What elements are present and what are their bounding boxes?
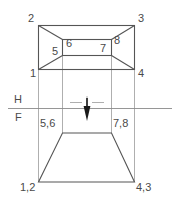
vertex-label-7: 7 <box>100 43 106 54</box>
vertex-label-2: 2 <box>28 13 34 24</box>
vertex-label-1: 1 <box>30 68 36 79</box>
vertex-label-6: 6 <box>66 38 72 49</box>
orthographic-projection-drawing <box>0 0 173 203</box>
vertex-label-5: 5 <box>52 46 58 57</box>
drawing-sheet: H F 2 3 1 4 5 6 7 8 5,6 7,8 1,2 4,3 <box>0 0 173 203</box>
top-view-edge-4-8 <box>112 56 135 70</box>
vertex-label-4: 4 <box>138 68 144 79</box>
viewing-direction-arrow <box>84 98 91 121</box>
fold-line-label-f: F <box>15 112 22 123</box>
vertex-label-1-2: 1,2 <box>20 182 35 193</box>
arrow-head-icon <box>84 106 91 121</box>
front-view <box>39 133 135 182</box>
top-view-edge-1-5 <box>39 56 63 70</box>
vertex-label-5-6: 5,6 <box>40 118 55 129</box>
top-view-edge-2-6 <box>39 26 63 40</box>
vertex-label-4-3: 4,3 <box>136 182 151 193</box>
vertex-label-3: 3 <box>138 13 144 24</box>
vertex-label-7-8: 7,8 <box>113 118 128 129</box>
vertex-label-8: 8 <box>114 35 120 46</box>
front-view-trapezoid <box>39 133 135 182</box>
fold-line-label-h: H <box>14 94 22 105</box>
